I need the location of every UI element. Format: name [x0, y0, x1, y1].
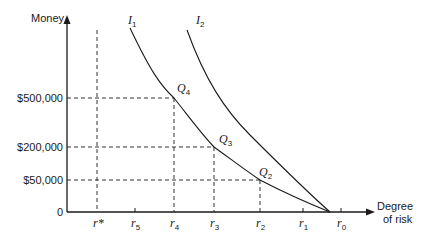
curve-label-i2: I2	[196, 14, 204, 31]
risk-money-indifference-diagram: Money Degree of risk 0 $500,000 $200,000…	[0, 0, 428, 245]
x-tick-r5: r5	[131, 217, 140, 234]
x-axis-arrow-icon	[366, 209, 375, 216]
x-tick-r0: r0	[337, 217, 346, 234]
x-tick-r2: r2	[256, 217, 265, 234]
x-tick-r4: r4	[170, 217, 179, 234]
x-axis-label-line2: of risk	[383, 213, 412, 225]
y-tick-50000: $50,000	[3, 174, 63, 186]
y-axis-label: Money	[31, 12, 64, 24]
point-label-q4: Q4	[177, 82, 190, 99]
curve-label-i1: I1	[128, 14, 136, 31]
point-label-q2: Q2	[259, 166, 272, 183]
y-axis-arrow-icon	[64, 15, 71, 24]
x-tick-r1: r1	[299, 217, 308, 234]
y-tick-500000: $500,000	[3, 92, 63, 104]
indifference-curve-i2	[187, 30, 330, 212]
origin-label: 0	[57, 206, 63, 218]
reference-lines	[67, 30, 260, 212]
point-label-q3: Q3	[219, 133, 232, 150]
diagram-canvas	[0, 0, 428, 245]
x-tick-r3: r3	[210, 217, 219, 234]
y-tick-200000: $200,000	[3, 141, 63, 153]
axes	[67, 22, 368, 212]
x-axis-label-line1: Degree	[377, 200, 413, 212]
x-tick-rstar: r*	[93, 217, 104, 229]
